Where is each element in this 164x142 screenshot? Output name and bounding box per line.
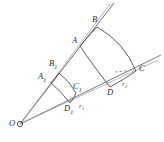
label-point-C1-sub: 1: [79, 87, 82, 93]
arc-a1-d1: [51, 83, 70, 103]
label-point-A: A: [72, 36, 77, 45]
label-point-B1-sub: 1: [54, 64, 57, 70]
arc-b-c: [97, 27, 136, 71]
label-point-B1: B1: [49, 59, 57, 70]
label-radius-r2: r2: [122, 81, 127, 89]
label-origin-O: O: [9, 119, 15, 128]
label-point-A1-sub: 1: [43, 77, 46, 83]
geometric-diagram: O A B C D A1 B1 C1 D1 r1 r2: [0, 0, 164, 142]
construction-lines: [115, 70, 134, 72]
label-point-D: D: [107, 88, 113, 97]
arc-a-d: [80, 46, 110, 87]
label-point-D1: D1: [64, 104, 73, 115]
dashed-segment-to-c: [115, 70, 134, 72]
label-radius-r1: r1: [79, 103, 84, 111]
label-point-C1: C1: [73, 82, 82, 93]
label-point-B: B: [92, 15, 97, 24]
label-radius-r1-sub: 1: [82, 106, 85, 111]
edge-a-b: [80, 27, 97, 46]
outer-quadrilateral: [80, 27, 136, 87]
label-radius-r2-sub: 2: [125, 84, 128, 89]
label-point-C: C: [139, 64, 145, 73]
lower-ray-line-secondary: [20, 60, 158, 124]
label-point-D1-sub: 1: [70, 109, 73, 115]
label-point-A1: A1: [38, 72, 46, 83]
arc-a1-b1: [51, 73, 59, 83]
